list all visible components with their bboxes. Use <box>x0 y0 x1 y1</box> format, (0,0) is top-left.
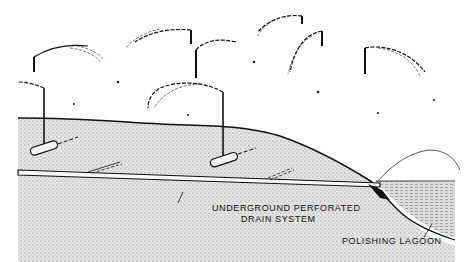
drain-label-line1: UNDERGROUND PERFORATED <box>212 203 361 213</box>
drain-label-line2: DRAIN SYSTEM <box>241 214 316 224</box>
lagoon-label: POLISHING LAGOON <box>342 236 442 246</box>
far-hill-line <box>378 150 460 181</box>
sprinkler-heads <box>18 16 425 108</box>
irrigation-diagram: UNDERGROUND PERFORATED DRAIN SYSTEM POLI… <box>0 0 473 262</box>
grass-tufts <box>73 61 435 116</box>
